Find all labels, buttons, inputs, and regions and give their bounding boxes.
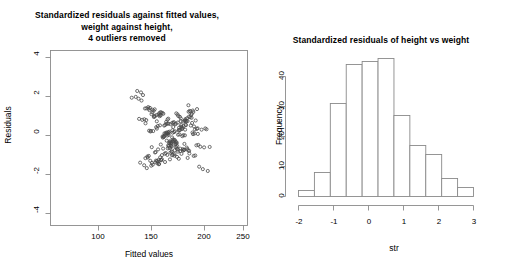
- scatter-point: [200, 128, 203, 131]
- scatter-point: [199, 145, 202, 148]
- scatter-point: [192, 125, 195, 128]
- scatter-point: [150, 146, 153, 149]
- scatter-point: [201, 168, 204, 171]
- histogram-bar: [346, 65, 362, 197]
- scatter-point: [191, 121, 194, 124]
- scatter-point: [162, 147, 165, 150]
- scatter-point: [157, 148, 160, 151]
- scatter-panel: Standardized residuals against fitted va…: [0, 0, 254, 270]
- scatter-point: [144, 122, 147, 125]
- histogram-panel: Standardized residuals of height vs weig…: [254, 0, 508, 270]
- scatter-point: [155, 120, 158, 123]
- scatter-points-group: [130, 89, 211, 172]
- scatter-point: [143, 164, 146, 167]
- scatter-point: [159, 143, 162, 146]
- histogram-bar: [378, 59, 394, 197]
- histogram-bars-group: [299, 59, 474, 197]
- histogram-bar: [314, 173, 330, 197]
- histogram-bar: [330, 104, 346, 197]
- scatter-point: [186, 156, 189, 159]
- histogram-bar: [299, 191, 315, 197]
- scatter-point: [168, 158, 171, 161]
- scatter-point: [198, 165, 201, 168]
- scatter-y-ticks: [46, 58, 51, 214]
- histogram-plot-area: [254, 0, 508, 270]
- histogram-bar: [410, 146, 426, 197]
- histogram-y-axis: [281, 77, 286, 197]
- scatter-point: [136, 89, 139, 92]
- scatter-point: [140, 99, 143, 102]
- scatter-point: [208, 145, 211, 148]
- figure-canvas: Standardized residuals against fitted va…: [0, 0, 508, 270]
- scatter-point: [139, 91, 142, 94]
- scatter-point: [183, 142, 186, 145]
- scatter-point: [134, 95, 137, 98]
- scatter-point: [206, 169, 209, 172]
- histogram-x-axis: [299, 206, 474, 211]
- scatter-point: [139, 161, 142, 164]
- scatter-point: [145, 167, 148, 170]
- histogram-bar: [426, 155, 442, 197]
- histogram-bar: [458, 188, 474, 197]
- scatter-point: [163, 160, 166, 163]
- scatter-point: [203, 146, 206, 149]
- scatter-frame: [51, 51, 248, 226]
- scatter-point: [194, 119, 197, 122]
- scatter-x-ticks: [99, 226, 244, 231]
- scatter-point: [138, 117, 141, 120]
- scatter-point: [195, 108, 198, 111]
- scatter-point: [196, 132, 199, 135]
- scatter-point: [130, 96, 133, 99]
- histogram-bar: [362, 62, 378, 197]
- histogram-bar: [442, 179, 458, 197]
- scatter-point: [187, 104, 190, 107]
- scatter-plot-area: [0, 0, 254, 270]
- histogram-bar: [394, 116, 410, 197]
